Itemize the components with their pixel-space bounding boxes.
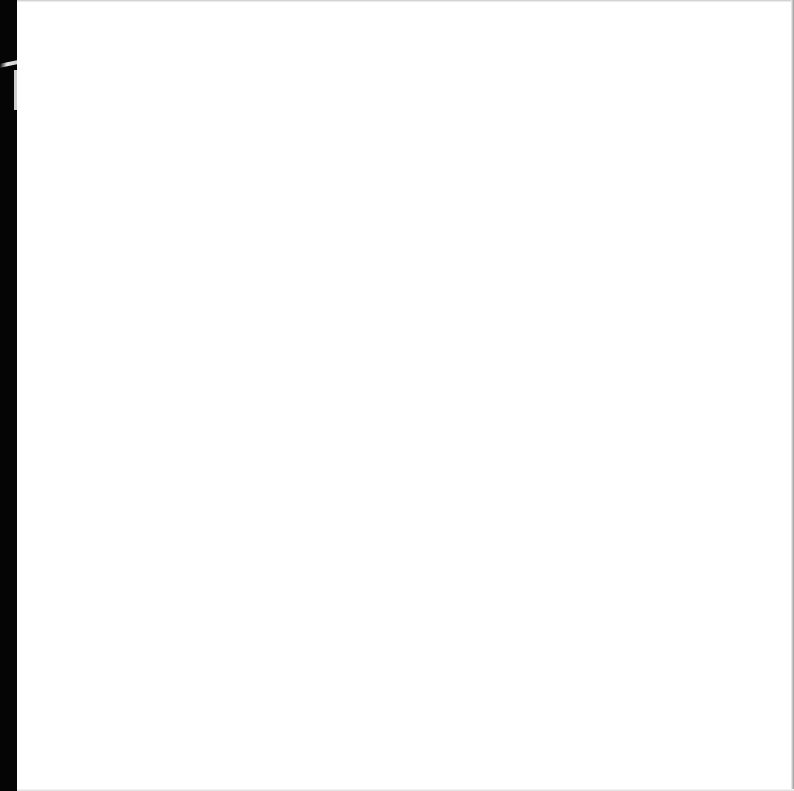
blank-page-body [17, 2, 791, 789]
scan-top-border [17, 0, 794, 2]
scan-edge-artifact-sliver [14, 70, 17, 110]
scan-left-border [0, 0, 17, 791]
scanned-page [0, 0, 794, 791]
